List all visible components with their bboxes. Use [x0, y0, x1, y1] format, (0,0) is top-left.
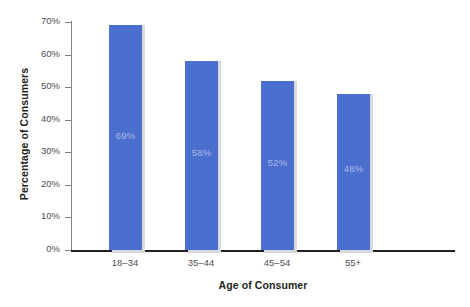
bar-group: 48% [315, 22, 391, 250]
bar-value-label: 69% [109, 130, 142, 141]
bar[interactable]: 48% [337, 94, 370, 250]
bar-group: 52% [239, 22, 315, 250]
bar-value-label: 58% [185, 147, 218, 158]
y-axis-tick-label: 70% [41, 15, 60, 26]
bar[interactable]: 69% [109, 25, 142, 250]
bar-value-label: 52% [261, 157, 294, 168]
x-axis-category-label: 45–54 [239, 257, 315, 268]
y-axis-tick-mark [65, 250, 71, 251]
y-axis-title: Percentage of Consumers [18, 34, 30, 234]
x-axis-category-label: 18–34 [87, 257, 163, 268]
y-axis-tick-label: 40% [41, 113, 60, 124]
x-axis-line [71, 250, 455, 252]
y-axis-tick-label: 10% [41, 210, 60, 221]
x-axis-category-label: 35–44 [163, 257, 239, 268]
bar-chart: Percentage of Consumers 0%10%20%30%40%50… [0, 0, 470, 307]
y-axis-tick-label: 20% [41, 178, 60, 189]
y-axis-tick-label: 0% [46, 243, 60, 254]
bar[interactable]: 52% [261, 81, 294, 250]
y-axis-tick-label: 30% [41, 145, 60, 156]
x-axis-category-label: 55+ [315, 257, 391, 268]
bar-group: 69% [87, 22, 163, 250]
bar-group: 58% [163, 22, 239, 250]
plot-area: 69%58%52%48% [71, 22, 455, 250]
y-axis-tick-label: 50% [41, 80, 60, 91]
x-axis-title: Age of Consumer [71, 279, 455, 291]
bar[interactable]: 58% [185, 61, 218, 250]
y-axis-tick-label: 60% [41, 48, 60, 59]
bar-value-label: 48% [337, 163, 370, 174]
